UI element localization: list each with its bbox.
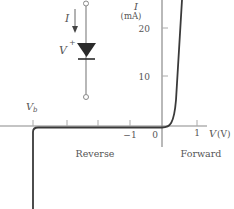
reverse-region-label: Reverse <box>76 148 115 159</box>
x-tick-label-neg1: −1 <box>123 130 136 140</box>
current-label: I <box>64 12 70 25</box>
breakdown-subscript: b <box>33 106 38 114</box>
voltage-sign: + <box>69 38 76 47</box>
iv-curve <box>33 0 182 209</box>
diode-iv-diagram: I V + 20 10 −1 0 1 I (mA) V (V) V b Reve… <box>0 0 234 209</box>
axes: 20 10 −1 0 1 I (mA) V (V) V b <box>0 0 231 147</box>
y-tick-label-20: 20 <box>139 24 151 34</box>
voltage-label: V <box>59 44 68 57</box>
forward-region-label: Forward <box>181 148 222 159</box>
y-tick-label-10: 10 <box>139 72 151 82</box>
x-tick-label-1: 1 <box>194 128 200 138</box>
x-tick-label-0: 0 <box>152 130 158 140</box>
x-axis-unit: (V) <box>217 129 231 139</box>
bottom-terminal <box>84 95 89 100</box>
diode-triangle-icon <box>77 43 96 57</box>
y-axis-unit: (mA) <box>121 11 142 21</box>
diode-circuit: I V + <box>59 1 96 100</box>
arrow-down-icon <box>72 26 78 33</box>
top-terminal <box>84 1 89 6</box>
